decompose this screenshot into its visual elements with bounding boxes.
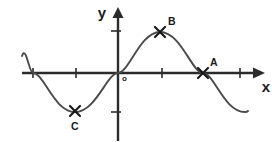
point-a-label: A <box>210 56 218 68</box>
y-axis-label: y <box>98 4 107 21</box>
sine-curve-figure: y x o A B C <box>0 0 280 142</box>
origin-label: o <box>122 74 127 83</box>
x-axis-label: x <box>262 78 271 95</box>
y-axis-arrow-icon <box>113 7 124 18</box>
point-c-label: C <box>71 120 79 132</box>
plot-canvas: y x o A B C <box>0 0 280 142</box>
x-axis-arrow-icon <box>253 68 265 79</box>
point-b-label: B <box>168 15 176 27</box>
